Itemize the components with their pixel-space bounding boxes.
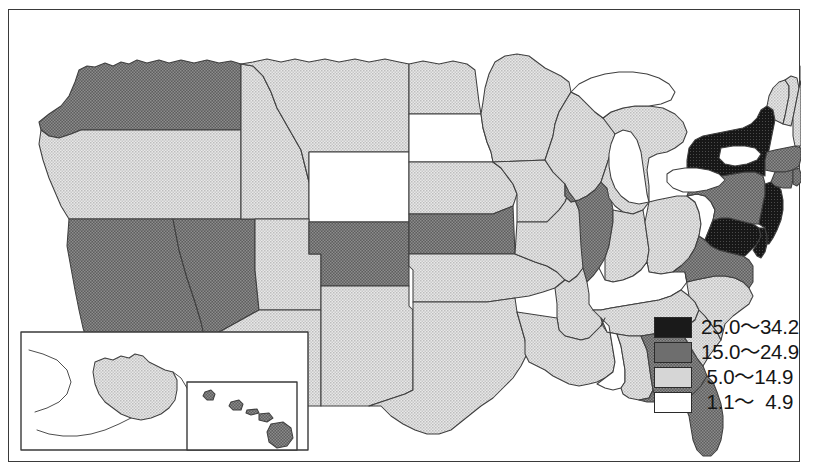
legend-row-class2: 15.0〜24.9 bbox=[654, 340, 804, 365]
choropleth-map-figure: Washington — 15.0〜24.9 Oregon — 5.0〜14.9… bbox=[0, 0, 815, 475]
hawaii-oahu[interactable]: Hawaii — 15.0〜24.9 bbox=[229, 400, 243, 410]
hawaii-inset-group: Hawaii — 15.0〜24.9 Hawaii — 15.0〜24.9 Ha… bbox=[187, 382, 297, 450]
legend-label-class2: 15.0〜24.9 bbox=[701, 342, 799, 363]
legend-label-class3: 5.0〜14.9 bbox=[701, 367, 793, 388]
legend-label-class4: 1.1〜 4.9 bbox=[701, 392, 793, 413]
legend-swatch-darkest bbox=[654, 317, 692, 338]
state-MA[interactable]: Massachusetts — 15.0〜24.9 bbox=[765, 146, 801, 172]
state-WY[interactable]: Wyoming — 1.1〜 4.9 bbox=[309, 152, 409, 222]
legend-swatch-light bbox=[654, 367, 692, 388]
state-RI[interactable]: Rhode Island — 15.0〜24.9 bbox=[793, 168, 801, 186]
legend-swatch-dark bbox=[654, 342, 692, 363]
state-CT[interactable]: Connecticut — 15.0〜24.9 bbox=[771, 170, 793, 188]
state-NM[interactable]: New Mexico — 5.0〜14.9 bbox=[321, 286, 413, 406]
state-SD[interactable]: South Dakota — 1.1〜 4.9 bbox=[409, 114, 493, 162]
map-frame: Washington — 15.0〜24.9 Oregon — 5.0〜14.9… bbox=[8, 9, 800, 462]
state-OR[interactable]: Oregon — 5.0〜14.9 bbox=[39, 130, 241, 219]
legend-row-class4: 1.1〜 4.9 bbox=[654, 390, 804, 415]
legend-row-class3: 5.0〜14.9 bbox=[654, 365, 804, 390]
state-ND[interactable]: North Dakota — 5.0〜14.9 bbox=[409, 61, 481, 114]
state-WA[interactable]: Washington — 15.0〜24.9 bbox=[39, 60, 241, 138]
legend-swatch-lightest bbox=[654, 392, 692, 413]
state-NE[interactable]: Nebraska — 5.0〜14.9 bbox=[409, 162, 517, 214]
state-CO[interactable]: Colorado — 15.0〜24.9 bbox=[309, 222, 409, 286]
map-legend: 25.0〜34.2 15.0〜24.9 5.0〜14.9 1.1〜 4.9 bbox=[654, 315, 804, 415]
legend-row-class1: 25.0〜34.2 bbox=[654, 315, 804, 340]
legend-label-class1: 25.0〜34.2 bbox=[701, 317, 799, 338]
